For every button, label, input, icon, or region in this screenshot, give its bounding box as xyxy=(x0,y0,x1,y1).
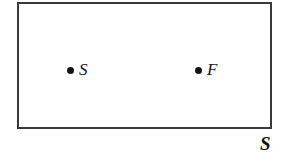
point-marker-finish: F xyxy=(195,62,218,79)
region-rectangle xyxy=(17,2,272,129)
point-marker-start: S xyxy=(67,62,88,79)
filled-dot-icon xyxy=(67,67,74,74)
point-label-finish: F xyxy=(207,61,218,78)
filled-dot-icon xyxy=(195,67,202,74)
figure-canvas: S F S xyxy=(0,0,292,164)
region-name-label: S xyxy=(260,134,271,153)
point-label-start: S xyxy=(79,61,88,78)
